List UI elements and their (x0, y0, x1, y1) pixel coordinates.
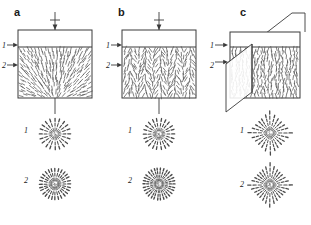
top-arrow-icon-b (154, 12, 164, 30)
panel-b: b 1 2 1 2 (104, 0, 208, 225)
pointer-arrow-b-2 (111, 63, 122, 67)
panel-a: a 1 2 1 2 (0, 0, 104, 225)
texture-pattern-c-1 (248, 111, 292, 155)
top-arrow-icon-a (50, 12, 60, 30)
panel-a-graphics (0, 0, 104, 225)
pointer-arrow-a-2 (7, 63, 18, 67)
panel-c-graphics (208, 0, 311, 225)
texture-pattern-b-1 (143, 119, 174, 150)
cell-outline-b (122, 30, 196, 98)
texture-pattern-a-2 (39, 168, 70, 199)
pointer-arrow-a-1 (7, 43, 18, 47)
cell-outline-a (18, 30, 92, 98)
pointer-arrow-b-1 (111, 43, 122, 47)
pointer-arrow-c-1 (215, 43, 228, 47)
panel-c: c 1 2 1 2 (208, 0, 311, 225)
panel-b-graphics (104, 0, 208, 225)
texture-pattern-c-2 (248, 163, 293, 207)
texture-pattern-a-1 (39, 118, 70, 149)
texture-pattern-b-2 (143, 168, 175, 200)
figure-canvas: a 1 2 1 2 (0, 0, 311, 225)
